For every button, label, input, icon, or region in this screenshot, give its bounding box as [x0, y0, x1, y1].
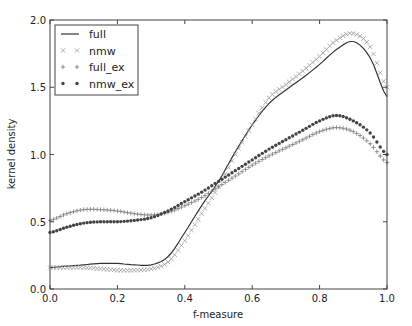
- series-full-ex: [48, 125, 389, 222]
- series-nmw-ex: [48, 114, 388, 234]
- legend: fullnmwfull_exnmw_ex: [55, 25, 138, 95]
- y-tick-label: 2.0: [30, 15, 46, 26]
- y-tick-label: 1.0: [30, 150, 46, 161]
- legend-label: full_ex: [89, 61, 125, 74]
- legend-label: nmw: [89, 45, 116, 58]
- x-tick-label: 0.6: [244, 293, 260, 304]
- y-axis-label: kernel density: [6, 119, 17, 190]
- legend-label: nmw_ex: [89, 78, 135, 91]
- x-axis-label: f-measure: [193, 309, 243, 320]
- x-tick-label: 1.0: [379, 293, 395, 304]
- kernel-density-chart: 0.00.20.40.60.81.00.00.51.01.52.0 f-meas…: [0, 0, 412, 326]
- y-tick-label: 1.5: [30, 82, 46, 93]
- x-tick-label: 0.4: [177, 293, 193, 304]
- y-tick-label: 0.5: [30, 217, 46, 228]
- legend-label: full: [89, 28, 106, 41]
- x-tick-label: 0.8: [312, 293, 328, 304]
- x-tick-label: 0.2: [109, 293, 125, 304]
- y-tick-label: 0.0: [30, 284, 46, 295]
